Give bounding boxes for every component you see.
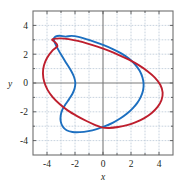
y-tick-label: -2 [20,107,28,117]
x-axis-title: x [100,172,106,182]
y-axis-title: y [7,79,13,89]
x-tick-label: -2 [71,159,79,169]
y-tick-labels: 420-2-4 [20,21,28,146]
x-tick-label: 2 [129,159,134,169]
y-tick-label: 0 [23,78,28,88]
chart-figure: -4-2024 420-2-4 x y [0,0,184,186]
y-tick-label: 4 [23,21,28,31]
x-tick-label: 0 [101,159,106,169]
x-tick-labels: -4-2024 [43,159,162,169]
y-tick-label: -4 [20,136,28,146]
plot-svg: -4-2024 420-2-4 x y [0,0,184,186]
y-tick-label: 2 [23,50,28,60]
x-tick-label: -4 [43,159,51,169]
x-tick-label: 4 [157,159,162,169]
